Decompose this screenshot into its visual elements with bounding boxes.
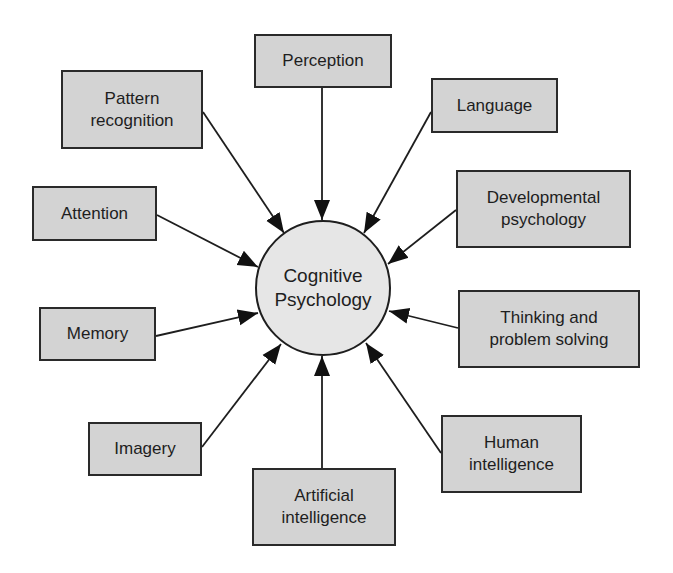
node-label-line1: Thinking and [500,307,597,329]
arrow-imagery [202,344,281,447]
node-language: Language [431,78,558,133]
node-pattern-recognition: Pattern recognition [61,70,203,149]
node-label: Perception [282,50,363,72]
node-label-line1: Artificial [294,485,354,507]
node-memory: Memory [39,307,156,361]
center-label-line1: Cognitive [283,264,362,288]
arrow-human-intelligence [366,343,441,453]
node-imagery: Imagery [88,422,202,476]
diagram-canvas: Cognitive Psychology Perception Pattern … [0,0,673,573]
node-label-line2: intelligence [281,507,366,529]
arrow-memory [156,313,258,336]
node-label-line1: Developmental [487,187,600,209]
center-label-line2: Psychology [274,288,371,312]
node-label-line2: problem solving [489,329,608,351]
arrow-language [364,112,431,233]
node-thinking-problem-solving: Thinking and problem solving [458,290,640,368]
node-label-line1: Pattern [105,88,160,110]
node-label-line2: psychology [501,209,586,231]
node-label-line2: intelligence [469,454,554,476]
node-label: Memory [67,323,128,345]
arrow-pattern-recognition [203,112,284,233]
node-label-line2: recognition [90,110,173,132]
center-node-cognitive-psychology: Cognitive Psychology [255,220,391,356]
node-label: Language [457,95,533,117]
node-human-intelligence: Human intelligence [441,415,582,493]
node-artificial-intelligence: Artificial intelligence [252,468,396,546]
arrow-developmental-psychology [388,210,456,264]
node-attention: Attention [32,186,157,241]
node-label-line1: Human [484,432,539,454]
arrow-attention [157,215,258,267]
arrow-thinking-problem-solving [389,311,458,328]
node-perception: Perception [254,34,392,88]
node-developmental-psychology: Developmental psychology [456,170,631,248]
node-label: Imagery [114,438,175,460]
node-label: Attention [61,203,128,225]
